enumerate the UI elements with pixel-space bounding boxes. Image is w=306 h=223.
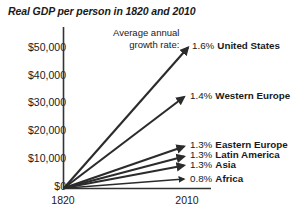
arrow-western-europe (64, 97, 184, 188)
series-label-united-states: 1.6%United States (192, 40, 280, 51)
series-rate-western-europe: 1.4% (190, 90, 212, 101)
series-label-asia: 1.3%Asia (190, 159, 236, 170)
series-label-western-europe: 1.4%Western Europe (190, 90, 290, 101)
series-name-united-states: United States (217, 40, 280, 51)
chart-container: Real GDP per person in 1820 and 2010 $0 … (0, 0, 306, 223)
series-name-asia: Asia (215, 159, 236, 170)
series-rate-africa: 0.8% (190, 173, 212, 184)
series-name-western-europe: Western Europe (215, 90, 290, 101)
series-name-africa: Africa (215, 173, 243, 184)
series-rate-asia: 1.3% (190, 159, 212, 170)
series-label-africa: 0.8%Africa (190, 173, 243, 184)
plot-area (0, 0, 306, 223)
series-rate-united-states: 1.6% (192, 40, 214, 51)
